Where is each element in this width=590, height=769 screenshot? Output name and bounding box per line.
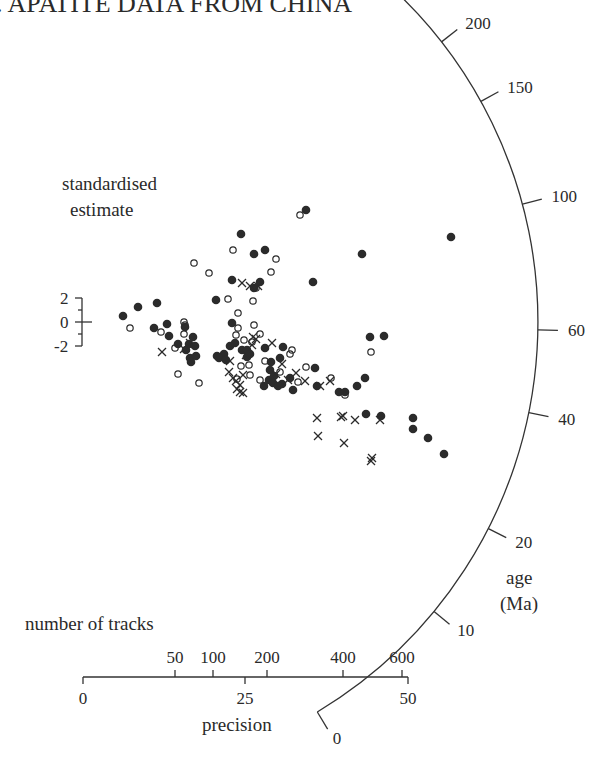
- open-circle-point: [303, 364, 309, 370]
- filled-circle-point: [358, 250, 367, 259]
- open-circle-point: [233, 332, 239, 338]
- tracks-tick-label: 100: [200, 648, 226, 667]
- filled-circle-point: [163, 320, 172, 329]
- data-points: [119, 206, 456, 465]
- open-circle-point: [158, 329, 164, 335]
- open-circle-point: [257, 377, 263, 383]
- age-tick: [434, 611, 449, 624]
- filled-circle-point: [289, 386, 298, 395]
- open-circle-point: [295, 379, 301, 385]
- filled-circle-point: [212, 296, 221, 305]
- filled-circle-point: [366, 333, 375, 342]
- standardised-scale: [75, 298, 92, 346]
- y-tick-label: -2: [54, 337, 68, 356]
- age-axis-label-line2: (Ma): [500, 593, 538, 615]
- filled-circle-point: [440, 450, 449, 459]
- cross-point: [238, 279, 246, 287]
- filled-circle-point: [250, 250, 259, 259]
- age-tick-label: 100: [551, 187, 577, 206]
- y-tick-label: 0: [60, 313, 69, 332]
- age-tick: [317, 712, 327, 729]
- age-axis-label-line1: age: [506, 567, 532, 588]
- y-tick-label: 2: [60, 289, 69, 308]
- filled-circle-point: [191, 342, 200, 351]
- age-tick: [442, 30, 458, 42]
- precision-tick-label: 0: [79, 689, 88, 708]
- cross-point: [158, 348, 166, 356]
- precision-tick-label: 50: [400, 689, 417, 708]
- filled-circle-point: [380, 332, 389, 341]
- cross-point: [268, 339, 276, 347]
- open-circle-point: [250, 298, 256, 304]
- open-circle-point: [247, 372, 253, 378]
- filled-circle-point: [261, 344, 270, 353]
- filled-circle-point: [153, 299, 162, 308]
- tracks-tick-label: 200: [254, 648, 280, 667]
- open-circle-point: [191, 260, 197, 266]
- cross-point: [301, 377, 309, 385]
- filled-circle-point: [231, 339, 240, 348]
- filled-circle-point: [134, 303, 143, 312]
- filled-circle-point: [237, 230, 246, 239]
- filled-circle-point: [361, 374, 370, 383]
- y-axis-label-line1: standardised: [62, 173, 157, 194]
- open-circle-point: [241, 337, 247, 343]
- open-circle-point: [246, 362, 252, 368]
- open-circle-point: [251, 322, 257, 328]
- cross-point: [292, 369, 300, 377]
- open-circle-point: [273, 256, 279, 262]
- open-circle-point: [257, 331, 263, 337]
- tracks-tick-label: 50: [167, 648, 184, 667]
- open-circle-point: [206, 270, 212, 276]
- chart-title: . APATITE DATA FROM CHINA: [0, 0, 352, 18]
- cross-point: [314, 432, 322, 440]
- open-circle-point: [230, 247, 236, 253]
- filled-circle-point: [362, 410, 371, 419]
- age-tick: [488, 529, 506, 538]
- filled-circle-point: [165, 332, 174, 341]
- tracks-axis-label: number of tracks: [25, 613, 154, 634]
- open-circle-point: [235, 310, 241, 316]
- age-tick-label: 40: [558, 410, 575, 429]
- filled-circle-point: [150, 324, 159, 333]
- filled-circle-point: [276, 354, 285, 363]
- tracks-tick-label: 600: [389, 648, 415, 667]
- age-tick-label: 60: [568, 321, 585, 340]
- age-tick-label: 200: [465, 14, 491, 33]
- filled-circle-point: [309, 278, 318, 287]
- cross-point: [239, 371, 247, 379]
- precision-axis-label: precision: [202, 714, 272, 735]
- open-circle-point: [181, 331, 187, 337]
- age-tick-label: 150: [507, 78, 533, 97]
- age-axis-ticks: 300200150100604020100: [317, 0, 585, 748]
- open-circle-point: [368, 349, 374, 355]
- y-tick-labels: 20-2: [54, 289, 69, 356]
- age-tick: [529, 413, 549, 417]
- filled-circle-point: [409, 414, 418, 423]
- open-circle-point: [268, 269, 274, 275]
- tracks-tick-label: 400: [330, 648, 356, 667]
- cross-point: [313, 414, 321, 422]
- open-circle-point: [238, 363, 244, 369]
- open-circle-point: [196, 380, 202, 386]
- radial-plot: . APATITE DATA FROM CHINA standardised e…: [0, 0, 590, 769]
- cross-point: [340, 439, 348, 447]
- filled-circle-point: [261, 246, 270, 255]
- open-circle-point: [225, 296, 231, 302]
- filled-circle-point: [187, 358, 196, 367]
- filled-circle-point: [409, 425, 418, 434]
- filled-circle-point: [228, 276, 237, 285]
- open-circle-point: [127, 325, 133, 331]
- open-circle-point: [175, 371, 181, 377]
- age-tick-label: 10: [457, 621, 474, 640]
- filled-circle-point: [311, 364, 320, 373]
- filled-circle-point: [424, 434, 433, 443]
- filled-circle-point: [353, 382, 362, 391]
- filled-circle-point: [119, 312, 128, 321]
- filled-circle-point: [279, 343, 288, 352]
- age-tick: [522, 199, 541, 204]
- cross-point: [351, 416, 359, 424]
- filled-circle-point: [274, 382, 283, 391]
- open-circle-point: [297, 212, 303, 218]
- age-tick-label: 0: [333, 729, 342, 748]
